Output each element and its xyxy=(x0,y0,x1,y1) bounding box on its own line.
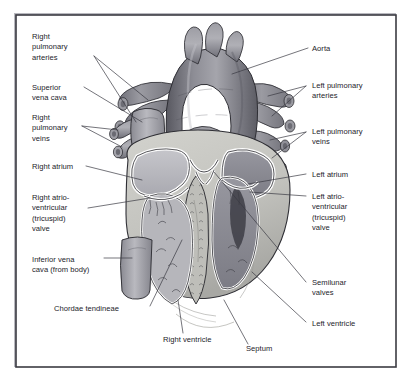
label-aorta: Aorta xyxy=(312,44,331,53)
heart-anatomy-figure: Right pulmonary arteries Superior vena c… xyxy=(0,0,409,388)
label-superior-vena-cava: Superior vena cava xyxy=(32,83,68,102)
label-left-atrium: Left atrium xyxy=(312,170,348,179)
label-right-atrium: Right atrium xyxy=(32,162,73,171)
label-right-ventricle: Right ventricle xyxy=(163,335,211,344)
label-septum: Septum xyxy=(246,344,272,353)
label-chordae-tendineae: Chordae tendineae xyxy=(54,304,119,313)
label-left-ventricle: Left ventricle xyxy=(312,319,355,328)
inferior-vena-cava-vessel xyxy=(121,237,153,299)
